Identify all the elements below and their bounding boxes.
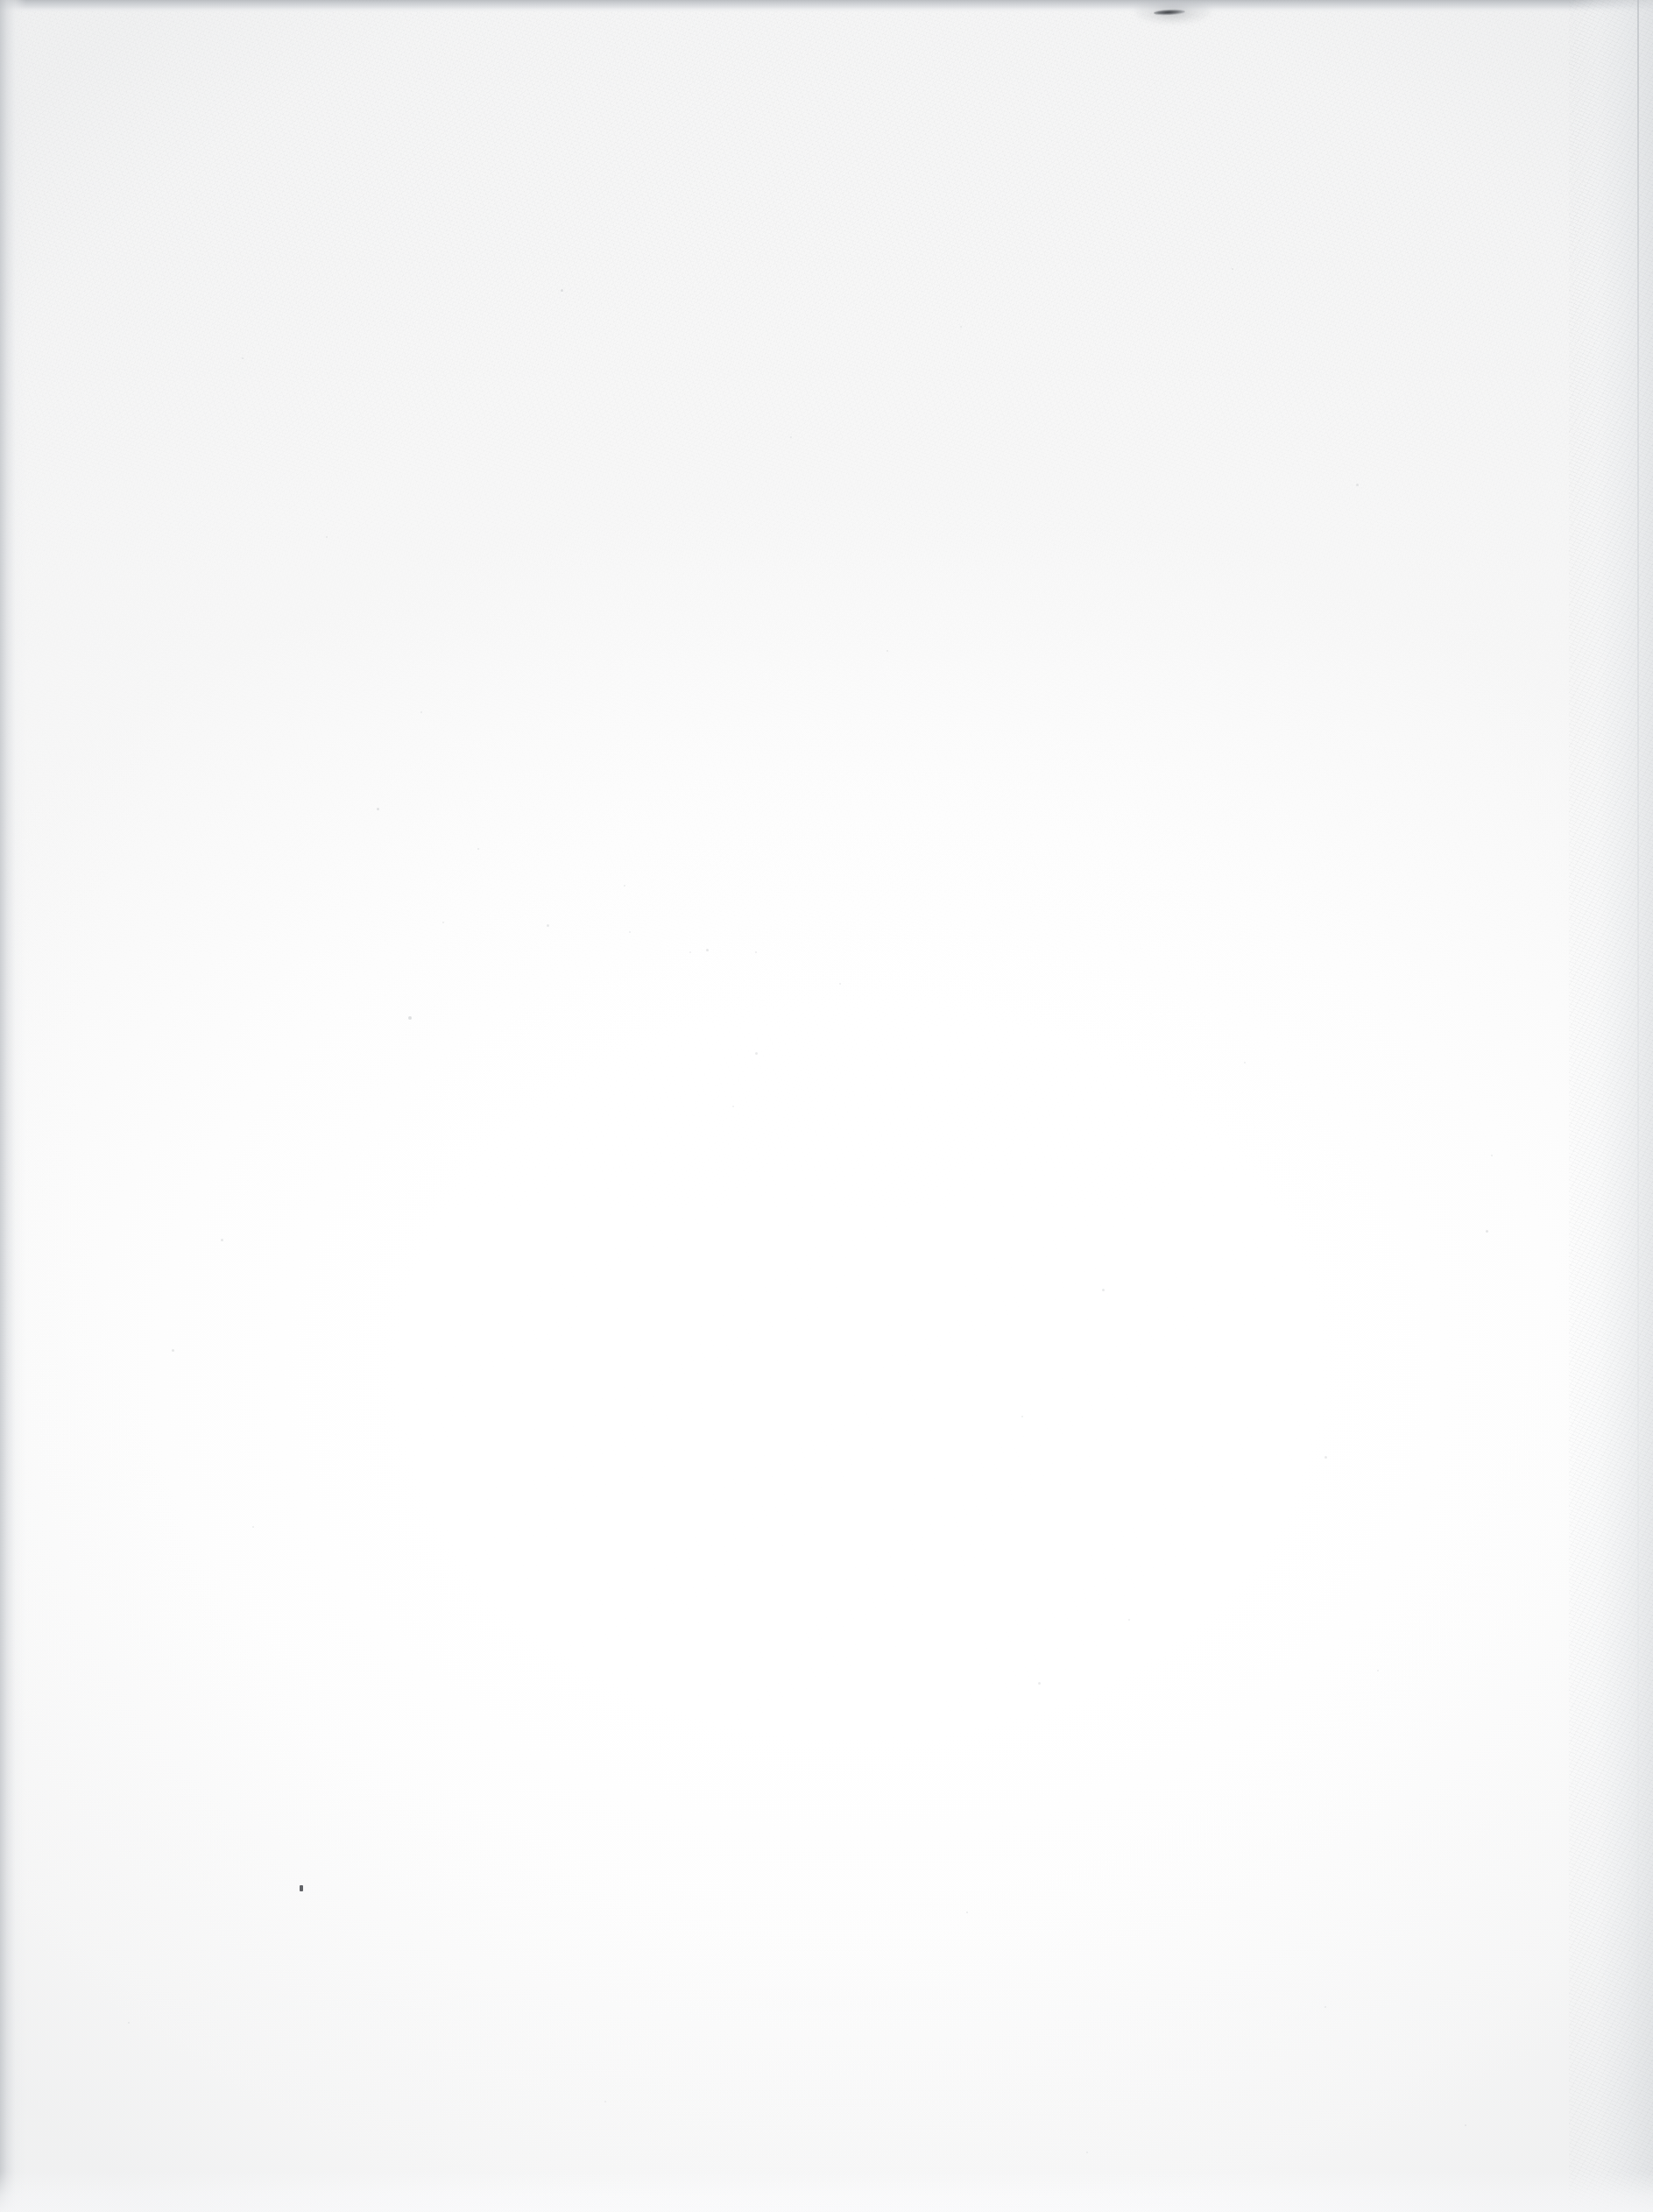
paper-speck — [1128, 1619, 1130, 1621]
paper-speck — [1491, 1155, 1493, 1156]
top-scan-edge-band — [0, 0, 1653, 12]
bottom-light-band — [0, 2172, 1653, 2212]
paper-speck — [1325, 2006, 1326, 2008]
paper-speck — [477, 848, 479, 850]
right-scan-edge-texture — [1569, 0, 1653, 2212]
paper-speck — [442, 922, 444, 923]
paper-speck — [1377, 1670, 1379, 1671]
paper-speck — [420, 711, 422, 713]
paper-speck — [1086, 2152, 1088, 2153]
paper-speck — [252, 1526, 254, 1528]
paper-speck — [547, 924, 549, 927]
left-scan-edge-band — [0, 0, 26, 2212]
ink-smudge-halo — [1135, 0, 1211, 23]
paper-grain-texture — [0, 0, 1653, 2212]
scanned-page: blank — [0, 0, 1653, 2212]
paper-speck — [1325, 1456, 1327, 1459]
corner-vignette — [0, 0, 1653, 2212]
ink-smudge — [1154, 9, 1185, 16]
fibre-speck-layer — [0, 0, 1653, 2212]
paper-speck — [604, 2101, 606, 2102]
paper-speck — [408, 1016, 412, 1020]
paper-speck — [221, 1239, 223, 1241]
paper-speck — [960, 326, 962, 328]
paper-speck — [1356, 484, 1359, 486]
paper-speck — [242, 357, 244, 359]
paper-speck — [790, 436, 792, 438]
paper-speck — [377, 808, 379, 810]
paper-speck — [1244, 1062, 1246, 1064]
paper-speck — [172, 1349, 174, 1352]
paper-speck — [629, 931, 631, 933]
paper-speck — [1038, 1682, 1041, 1685]
right-scan-edge-band — [1569, 0, 1653, 2212]
paper-speck — [1486, 1230, 1488, 1233]
paper-speck — [326, 536, 328, 538]
paper-speck — [624, 885, 625, 887]
paper-speck — [755, 951, 757, 953]
paper-speck — [1465, 2124, 1466, 2126]
paper-speck — [561, 289, 563, 292]
paper-speck — [755, 1052, 758, 1055]
paper-speck — [1232, 268, 1233, 270]
paper-speck — [128, 2022, 130, 2024]
paper-speck — [966, 1912, 968, 1913]
paper-speck — [839, 983, 841, 985]
dark-speck-lower-left — [300, 1885, 303, 1891]
right-crease-line — [1637, 0, 1639, 2212]
paper-speck — [689, 951, 691, 953]
paper-speck — [887, 650, 888, 652]
paper-speck — [1102, 1289, 1105, 1291]
paper-speck — [732, 1106, 734, 1107]
paper-speck — [706, 949, 709, 951]
paper-speck — [1021, 1416, 1023, 1417]
